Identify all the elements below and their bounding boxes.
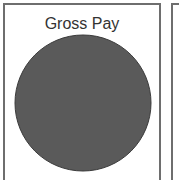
chart-panel-2 — [171, 3, 179, 180]
pie-slice-gross-pay — [15, 35, 151, 171]
pie-chart — [0, 0, 179, 180]
